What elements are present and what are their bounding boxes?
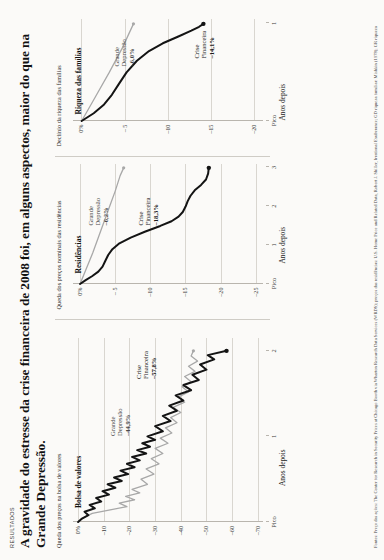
y-axis-tick-label: –15 [207,125,214,147]
plot-area-housing: Residências Grande Depressão –6,2% Crise… [69,157,265,310]
x-axis-tick-label: 2 [270,205,277,208]
x-axis-tick-label: 3 [270,166,277,169]
annotation-financial-crisis: Crise Financeira –18,3% [137,198,160,226]
x-axis-tick-mark [266,350,269,351]
panel-subtitle: Declínio da riqueza das famílias [55,11,62,147]
annotation-name-line1: Grande [109,417,116,436]
plot-area-wealth: Riqueza das famílias Grande Depressão –6… [69,11,265,147]
x-axis-housing: Anos depois Pico123 [267,157,293,310]
page-title: A gravidade do estresse da crise finance… [17,28,48,548]
x-axis-tick-mark [266,166,269,167]
annotation-value: –44,9% [124,415,131,436]
series-endpoint-marker [132,22,135,25]
y-axis-tick-label: –10 [146,288,153,310]
annotation-name-line2: Financeira [200,31,207,59]
y-axis-tick-label: 0% [74,526,81,548]
annotation-value: –14,1% [208,37,215,58]
x-axis-wealth: Anos depois Pico1 [267,11,293,147]
x-axis-tick-label: Pico [270,516,277,527]
series-line-financial-crisis [81,23,203,120]
annotation-name-line1: Crise [135,365,142,379]
y-axis-tick-label: – 5 [111,288,118,310]
panel-title: Residências [75,236,84,274]
y-axis-tick-label: 0% [76,288,83,310]
annotation-name-line2: Financeira [142,351,149,379]
y-axis-tick-label: –40 [177,526,184,548]
annotation-name-line2: Financeira [144,198,151,226]
x-axis-tick-label: 1 [270,435,277,438]
y-axis-tick-label: –20 [250,125,257,147]
y-axis-tick-label: 0% [77,125,84,147]
x-axis-tick-mark [266,205,269,206]
y-axis-tick-label: –10 [100,526,107,548]
y-axis-tick-label: –50 [202,526,209,548]
annotation-name-line1: Grande [113,47,120,66]
chart-panel-stocks: Queda dos preços na bolsa de valores Bol… [55,320,292,548]
section-kicker: RESULTADOS [9,11,15,548]
x-axis-label: Anos depois [278,84,287,121]
source-note: Fontes: Preço das ações: The Center for … [373,11,379,548]
series-endpoint-marker [201,21,205,25]
x-axis-label: Anos depois [278,227,287,264]
annotation-name-line1: Crise [137,212,144,226]
annotation-value: –6,2% [102,207,109,225]
y-axis-tick-label: – 5 [121,125,128,147]
y-axis-tick-label: –15 [181,288,188,310]
rotated-page-wrapper: RESULTADOS A gravidade do estresse da cr… [0,0,384,560]
x-axis-tick-mark [266,120,269,121]
x-axis-tick-mark [266,283,269,284]
annotation-great-depression: Grande Depressão –44,9% [109,409,132,436]
plot-area-stocks: Bolsa de valores Grande Depressão –44,9%… [69,320,265,548]
x-axis-label: Anos depois [278,449,287,486]
annotation-value: –57,8% [150,358,157,379]
panel-divider [55,156,270,157]
annotation-name-line2: Depressão [120,39,127,66]
annotation-name-line2: Depressão [94,198,101,225]
annotation-name-line2: Depressão [116,409,123,436]
x-axis-tick-label: 1 [270,243,277,246]
chart-lines [69,160,265,310]
annotation-great-depression: Grande Depressão –6,0% [113,39,136,66]
annotation-name-line1: Crise [193,45,200,59]
panel-divider [55,319,270,320]
annotation-value: –6,0% [128,48,135,66]
chart-panel-wealth: Declínio da riqueza das famílias Riqueza… [55,11,292,157]
x-axis-tick-label: Pico [270,278,277,289]
y-axis-tick-label: –20 [125,526,132,548]
series-endpoint-marker [122,166,125,169]
series-endpoint-marker [192,349,195,352]
panel-title: Riqueza das famílias [75,45,84,115]
annotation-value: –18,3% [152,204,159,225]
y-axis-tick-label: –70 [254,526,261,548]
panel-title: Bolsa de valores [75,456,84,508]
y-axis-tick-label: –20 [217,288,224,310]
annotation-financial-crisis: Crise Financeira –14,1% [193,31,216,59]
series-endpoint-marker [206,165,210,169]
infographic-page: RESULTADOS A gravidade do estresse da cr… [0,0,384,560]
chart-panel-housing: Queda dos preços nominais das residência… [55,157,292,320]
panel-subtitle: Queda dos preços na bolsa de valores [55,320,62,548]
series-endpoint-marker [224,349,228,353]
y-axis-tick-label: –30 [151,526,158,548]
panel-subtitle: Queda dos preços nominais das residência… [55,157,62,310]
x-axis-tick-label: Pico [270,115,277,126]
x-axis-tick-mark [266,22,269,23]
x-axis-tick-label: 2 [270,349,277,352]
annotation-financial-crisis: Crise Financeira –57,8% [135,351,158,379]
y-axis-tick-label: –60 [228,526,235,548]
annotation-name-line1: Grande [87,206,94,225]
x-axis-tick-mark [266,521,269,522]
chart-panels-row: Queda dos preços na bolsa de valores Bol… [55,11,323,548]
x-axis-tick-label: 1 [270,22,277,25]
x-axis-stocks: Anos depois Pico12 [267,320,293,548]
annotation-great-depression: Grande Depressão –6,2% [87,198,110,225]
x-axis-tick-mark [266,244,269,245]
y-axis-tick-label: –10 [164,125,171,147]
x-axis-tick-mark [266,435,269,436]
y-axis-tick-label: –25 [252,288,259,310]
chart-lines [69,334,265,548]
